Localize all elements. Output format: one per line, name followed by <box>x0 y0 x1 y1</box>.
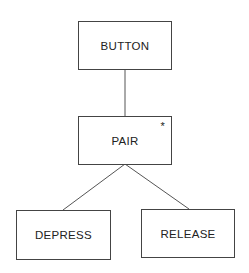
node-button: BUTTON <box>78 21 172 70</box>
node-label: PAIR <box>111 135 138 147</box>
node-label: DEPRESS <box>35 229 92 241</box>
node-label: RELEASE <box>160 228 215 240</box>
node-release: RELEASE <box>141 209 235 258</box>
iteration-marker: * <box>160 120 165 132</box>
node-pair: PAIR * <box>78 116 172 165</box>
edge-pair-depress <box>63 164 125 210</box>
node-label: BUTTON <box>101 40 150 52</box>
node-depress: DEPRESS <box>16 210 111 260</box>
edge-pair-release <box>125 164 189 209</box>
